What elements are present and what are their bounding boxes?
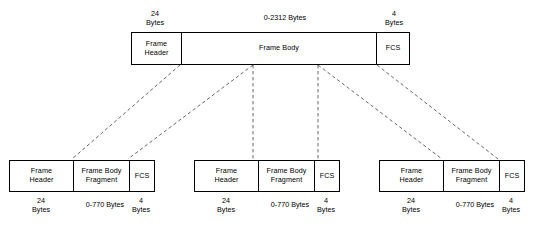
fragment-3-bar: Frame Header Frame Body Fragment FCS xyxy=(379,160,525,192)
fragment-fcs-cell: FCS xyxy=(314,161,339,191)
fragment-header-cell: Frame Header xyxy=(10,161,73,191)
annotation-line-2: Bytes xyxy=(381,205,441,214)
top-annotation-fcs: 4 Bytes xyxy=(364,9,424,27)
top-annotation-header: 24 Bytes xyxy=(125,9,185,27)
fragment-2-annotation-header: 24 Bytes xyxy=(196,196,256,214)
annotation-line-1: 4 xyxy=(364,9,424,18)
fragment-body-cell: Frame Body Fragment xyxy=(258,161,314,191)
connector-5 xyxy=(318,65,442,159)
cell-label-line-2: Fragment xyxy=(81,176,121,185)
cell-label-line-1: FCS xyxy=(135,172,150,181)
annotation-line-2: Bytes xyxy=(364,18,424,27)
annotation-line-1: 4 xyxy=(489,196,533,205)
fragment-2-bar: Frame Header Frame Body Fragment FCS xyxy=(194,160,340,192)
annotation-line-2: Bytes xyxy=(489,205,533,214)
fragment-body-cell: Frame Body Fragment xyxy=(73,161,129,191)
annotation-line-2: Bytes xyxy=(304,205,348,214)
annotation-line-2: Bytes xyxy=(119,205,163,214)
annotation-line-2: Bytes xyxy=(125,18,185,27)
annotation-line-1: 24 xyxy=(11,196,71,205)
fragment-3-annotation-fcs: 4 Bytes xyxy=(489,196,533,214)
cell-label-line-1: Frame Body xyxy=(259,44,299,53)
connector-2 xyxy=(128,65,253,159)
frame-fragmentation-diagram: 24 Bytes 0-2312 Bytes 4 Bytes Frame Head… xyxy=(0,0,537,226)
cell-label-line-2: Header xyxy=(29,176,53,185)
frame-fcs-cell: FCS xyxy=(376,33,409,64)
top-annotation-body: 0-2312 Bytes xyxy=(225,13,345,22)
cell-label-line-2: Header xyxy=(399,176,423,185)
fragment-fcs-cell: FCS xyxy=(129,161,154,191)
cell-label-line-1: FCS xyxy=(386,44,401,53)
annotation-line-1: 0-2312 Bytes xyxy=(225,13,345,22)
fragment-1-annotation-header: 24 Bytes xyxy=(11,196,71,214)
frame-body-cell: Frame Body xyxy=(181,33,376,64)
fragment-1-bar: Frame Header Frame Body Fragment FCS xyxy=(9,160,155,192)
annotation-line-1: 24 xyxy=(381,196,441,205)
annotation-line-1: 4 xyxy=(304,196,348,205)
cell-label-line-2: Fragment xyxy=(266,176,306,185)
cell-label-line-2: Fragment xyxy=(451,176,491,185)
annotation-line-1: 24 xyxy=(125,9,185,18)
annotation-line-2: Bytes xyxy=(11,205,71,214)
fragment-body-cell: Frame Body Fragment xyxy=(443,161,499,191)
fragment-fcs-cell: FCS xyxy=(499,161,524,191)
connector-6 xyxy=(377,65,498,159)
cell-label-line-1: FCS xyxy=(320,172,335,181)
connector-1 xyxy=(72,65,180,159)
fragment-header-cell: Frame Header xyxy=(380,161,443,191)
fragment-2-annotation-fcs: 4 Bytes xyxy=(304,196,348,214)
fragment-3-annotation-header: 24 Bytes xyxy=(381,196,441,214)
annotation-line-1: 4 xyxy=(119,196,163,205)
annotation-line-2: Bytes xyxy=(196,205,256,214)
unfragmented-frame-bar: Frame Header Frame Body FCS xyxy=(131,32,410,65)
fragment-1-annotation-fcs: 4 Bytes xyxy=(119,196,163,214)
frame-header-cell: Frame Header xyxy=(132,33,181,64)
cell-label-line-1: FCS xyxy=(505,172,520,181)
cell-label-line-2: Header xyxy=(144,49,168,58)
fragment-header-cell: Frame Header xyxy=(195,161,258,191)
annotation-line-1: 24 xyxy=(196,196,256,205)
cell-label-line-2: Header xyxy=(214,176,238,185)
